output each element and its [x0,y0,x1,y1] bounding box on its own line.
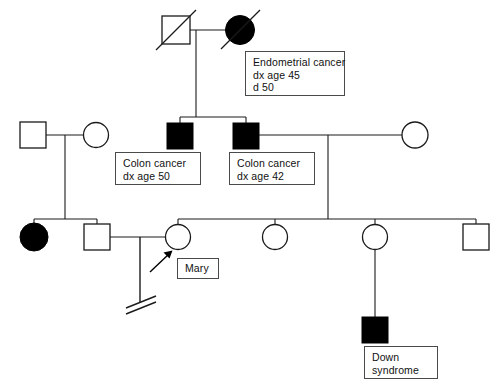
symbol-female-III-1 [20,223,48,251]
infertility-slash-1 [126,296,156,308]
symbol-male-III-2 [84,224,110,250]
annotation-colon-cancer-right: Colon cancer dx age 42 [229,152,315,185]
symbol-male-II-1 [20,122,46,148]
symbol-female-II-5 [402,122,428,148]
symbol-male-IV-1 [362,317,388,343]
symbol-female-III-3-mary [166,225,191,250]
infertility-slash-2 [126,302,156,314]
symbol-female-III-5 [363,225,388,250]
symbol-male-II-4 [233,123,259,149]
symbol-male-II-3 [167,123,193,149]
annotation-colon-cancer-left: Colon cancer dx age 50 [115,152,201,185]
annotation-down-syndrome: Down syndrome [364,346,438,379]
symbol-female-II-2 [84,123,109,148]
annotation-endometrial-cancer: Endometrial cancer dx age 45 d 50 [245,51,345,96]
pedigree-chart: Endometrial cancer dx age 45 d 50 Colon … [0,0,503,392]
annotation-proband-name: Mary [177,258,219,279]
symbol-female-III-4 [263,225,288,250]
symbol-male-III-6 [463,224,489,250]
